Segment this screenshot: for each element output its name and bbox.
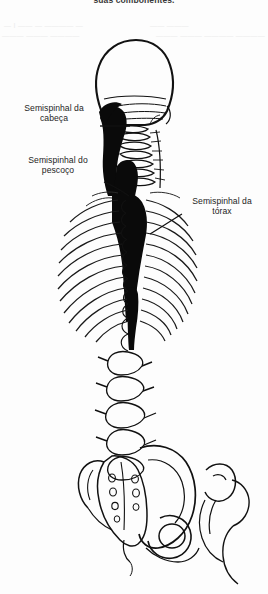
rib-cage-right bbox=[140, 200, 197, 341]
anatomy-figure: suas componentes. — I —— — ———— — ——— ——… bbox=[0, 0, 268, 594]
label-semispinalis-thoracis: Semispinhal da tórax bbox=[180, 196, 264, 217]
skeleton-drawing bbox=[0, 0, 268, 594]
sacrum bbox=[98, 456, 147, 576]
label-semispinalis-capitis: Semispinhal da cabeça bbox=[8, 103, 100, 124]
label-semispinalis-cervicis: Semispinhal do pescoço bbox=[10, 155, 106, 176]
lumbar-vertebrae bbox=[95, 351, 156, 480]
